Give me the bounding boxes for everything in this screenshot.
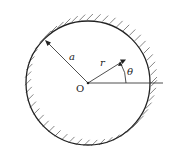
label-a: a	[69, 51, 75, 62]
label-theta: θ	[127, 66, 133, 77]
radius-r-arrow	[88, 61, 124, 84]
origin-point	[87, 82, 90, 85]
circle-diagram: a r θ O	[0, 0, 169, 164]
radius-a-arrow	[46, 41, 88, 83]
hatching-boundary	[25, 14, 157, 146]
angle-theta-arc	[121, 63, 127, 83]
label-origin: O	[76, 83, 84, 94]
label-r: r	[100, 57, 106, 68]
